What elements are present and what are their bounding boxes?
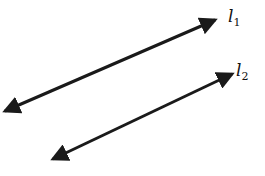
line-l1-label: l1 [228, 6, 240, 29]
diagram-canvas: l1 l2 [0, 0, 265, 176]
line-l2-label: l2 [236, 60, 248, 83]
line-l2-stroke [53, 74, 232, 159]
line-l2: l2 [53, 60, 248, 159]
line-l1: l1 [5, 6, 240, 111]
